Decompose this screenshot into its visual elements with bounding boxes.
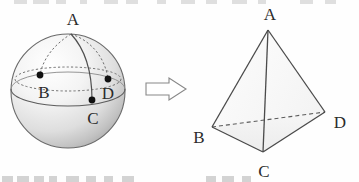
- sphere-group: A B D C: [11, 10, 125, 148]
- transformation-arrow: [146, 78, 186, 100]
- sphere-point-C-dot: [89, 97, 96, 104]
- sphere-label-D: D: [102, 84, 114, 103]
- sphere-point-B-dot: [37, 72, 44, 79]
- tetra-label-C: C: [258, 162, 269, 181]
- tetra-label-D: D: [334, 113, 346, 132]
- sphere-label-B: B: [38, 83, 49, 102]
- tetrahedron-group: A B C D: [193, 5, 346, 181]
- cropped-text-bottom: [2, 176, 251, 182]
- sphere-label-A: A: [67, 10, 80, 29]
- sphere-point-D-dot: [105, 76, 112, 83]
- figure-svg: A B D C A B C D: [0, 0, 359, 182]
- figure-container: A B D C A B C D: [0, 0, 359, 182]
- tetra-label-B: B: [193, 128, 204, 147]
- arrow-right-icon: [146, 78, 186, 100]
- sphere-label-C: C: [87, 109, 98, 128]
- cropped-text-top: [14, 0, 336, 4]
- tetra-label-A: A: [264, 5, 277, 24]
